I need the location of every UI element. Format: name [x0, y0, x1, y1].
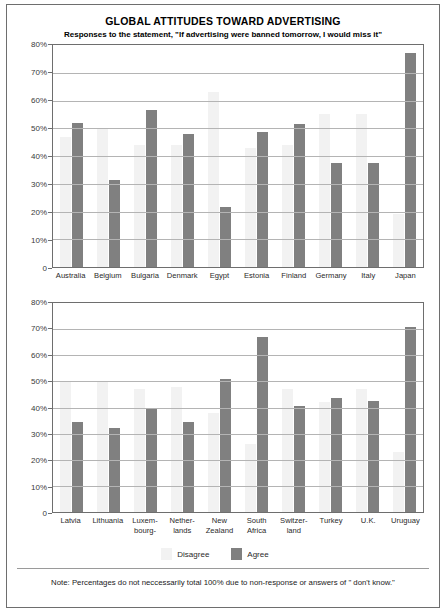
y-tick-label: 30% [31, 429, 47, 438]
gridline [53, 101, 423, 102]
y-tick-label: 10% [31, 482, 47, 491]
x-tick-label: Denmark [164, 268, 201, 292]
x-tick-label: Switzer- land [275, 513, 312, 537]
bar-agree [331, 163, 342, 267]
y-tick-mark [48, 72, 52, 73]
page-subtitle: Responses to the statement, "If advertis… [7, 30, 439, 39]
y-tick-mark [48, 328, 52, 329]
y-tick-label: 0 [43, 264, 47, 273]
bar-disagree [171, 145, 182, 267]
y-tick-label: 50% [31, 124, 47, 133]
y-tick-mark [48, 355, 52, 356]
x-tick-label: Italy [350, 268, 387, 292]
bar-disagree [208, 413, 219, 512]
bar-agree [183, 134, 194, 267]
gridline [53, 460, 423, 461]
x-tick-label: New Zealand [201, 513, 238, 537]
gridline [53, 73, 423, 74]
x-tick-label: Luxem- bourg- [126, 513, 163, 537]
x-axis-labels-2: LatviaLithuaniaLuxem- bourg-Nether- land… [52, 513, 424, 537]
y-tick-mark [48, 434, 52, 435]
bar-disagree [60, 381, 71, 512]
gridline [53, 329, 423, 330]
gridline [53, 486, 423, 487]
y-tick-label: 20% [31, 208, 47, 217]
y-tick-label: 60% [31, 96, 47, 105]
legend-swatch-icon [161, 548, 172, 560]
plot-frame-1 [52, 44, 424, 268]
y-tick-mark [48, 487, 52, 488]
bar-agree [405, 53, 416, 267]
y-tick-mark [48, 100, 52, 101]
x-tick-label: Belgium [89, 268, 126, 292]
legend-label: Disagree [177, 550, 209, 559]
chart-legend: DisagreeAgree [7, 548, 439, 560]
gridline [53, 355, 423, 356]
y-tick-mark [48, 408, 52, 409]
page-title: GLOBAL ATTITUDES TOWARD ADVERTISING [7, 15, 439, 27]
legend-item: Agree [231, 548, 268, 560]
y-tick-mark [48, 128, 52, 129]
x-tick-label: Uruguay [387, 513, 424, 537]
gridline [53, 156, 423, 157]
gridline [53, 128, 423, 129]
x-tick-label: Estonia [238, 268, 275, 292]
gridline [53, 434, 423, 435]
y-tick-label: 80% [31, 40, 47, 49]
y-tick-mark [48, 184, 52, 185]
bar-disagree [245, 148, 256, 267]
gridline [53, 408, 423, 409]
chart-panel-2: 80%70%60%50%40%30%20%10%0 LatviaLithuani… [14, 302, 432, 537]
gridline [53, 212, 423, 213]
plot-area-2: 80%70%60%50%40%30%20%10%0 [52, 302, 424, 513]
y-tick-label: 0 [43, 509, 47, 518]
bar-disagree [319, 402, 330, 512]
y-tick-mark [48, 44, 52, 45]
gridline [53, 239, 423, 240]
y-tick-label: 40% [31, 403, 47, 412]
x-tick-label: Japan [387, 268, 424, 292]
bar-agree [109, 428, 120, 512]
footnote: Note: Percentages do not neccessarily to… [7, 578, 439, 587]
chart-panel-1: 80%70%60%50%40%30%20%10%0 AustraliaBelgi… [14, 44, 432, 292]
x-tick-label: Germany [312, 268, 349, 292]
y-tick-label: 80% [31, 298, 47, 307]
y-tick-mark [48, 381, 52, 382]
bar-disagree [245, 444, 256, 512]
y-tick-mark [48, 212, 52, 213]
y-tick-label: 50% [31, 377, 47, 386]
x-tick-label: Latvia [52, 513, 89, 537]
gridline [53, 184, 423, 185]
x-tick-label: Australia [52, 268, 89, 292]
legend-swatch-icon [231, 548, 242, 560]
y-tick-mark [48, 460, 52, 461]
bar-disagree [393, 452, 404, 512]
bar-disagree [356, 114, 367, 267]
bar-agree [146, 110, 157, 267]
legend-label: Agree [247, 550, 268, 559]
x-tick-label: Bulgaria [126, 268, 163, 292]
bar-disagree [319, 114, 330, 267]
x-tick-label: U.K. [350, 513, 387, 537]
y-tick-label: 70% [31, 324, 47, 333]
y-tick-label: 70% [31, 68, 47, 77]
bar-disagree [134, 145, 145, 267]
x-tick-label: Lithuania [89, 513, 126, 537]
bar-agree [72, 123, 83, 267]
footer-divider [17, 568, 429, 569]
bar-disagree [171, 387, 182, 512]
bar-disagree [282, 145, 293, 267]
x-tick-label: Nether- lands [164, 513, 201, 537]
chart-figure: GLOBAL ATTITUDES TOWARD ADVERTISING Resp… [6, 4, 440, 608]
bar-disagree [208, 92, 219, 267]
y-tick-label: 40% [31, 152, 47, 161]
y-tick-label: 60% [31, 350, 47, 359]
x-tick-label: Finland [275, 268, 312, 292]
x-tick-label: South Africa [238, 513, 275, 537]
bar-agree [294, 124, 305, 267]
x-tick-label: Turkey [312, 513, 349, 537]
y-tick-mark [48, 240, 52, 241]
x-axis-labels-1: AustraliaBelgiumBulgariaDenmarkEgyptEsto… [52, 268, 424, 292]
bar-disagree [97, 381, 108, 512]
y-tick-label: 30% [31, 180, 47, 189]
